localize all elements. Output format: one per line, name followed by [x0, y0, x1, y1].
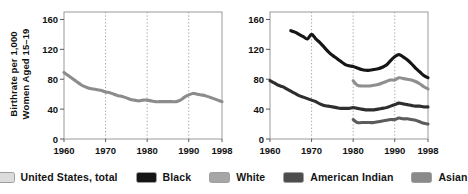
chart-panel-left: Birthrate per 1,000 Women Aged 15–19 040…	[0, 0, 230, 160]
legend-label: Asian	[438, 171, 467, 183]
legend-swatch	[136, 172, 157, 183]
x-tick-label: 1998	[417, 145, 438, 156]
x-tick-label: 1970	[95, 145, 116, 156]
plot-area-left	[0, 0, 230, 160]
chart-legend: United States, totalBlackWhiteAmerican I…	[0, 160, 461, 194]
x-tick-label: 1990	[178, 145, 199, 156]
legend-swatch	[209, 172, 230, 183]
legend-item[interactable]: White	[209, 171, 265, 183]
legend-swatch	[283, 172, 304, 183]
x-tick-label: 1980	[343, 145, 364, 156]
legend-label: Black	[163, 171, 192, 183]
legend-label: United States, total	[21, 171, 118, 183]
x-tick-label: 1980	[137, 145, 158, 156]
plot-area-right	[230, 0, 461, 160]
legend-item[interactable]: Black	[136, 171, 192, 183]
series-line	[64, 73, 222, 102]
x-tick-labels-right: 19601970198019901998	[230, 145, 461, 161]
x-tick-label: 1970	[301, 145, 322, 156]
legend-label: American Indian	[310, 171, 393, 183]
x-tick-label: 1960	[53, 145, 74, 156]
legend-item[interactable]: Asian	[411, 171, 467, 183]
plot-frame	[64, 12, 222, 139]
series-line	[270, 81, 428, 110]
chart-panel-right: 04080120160 19601970198019901998	[230, 0, 461, 160]
x-tick-labels-left: 19601970198019901998	[0, 145, 230, 161]
legend-swatch	[0, 172, 15, 183]
series-line	[353, 78, 428, 89]
x-tick-label: 1990	[384, 145, 405, 156]
x-tick-label: 1960	[259, 145, 280, 156]
series-line	[353, 118, 428, 124]
legend-item[interactable]: United States, total	[0, 171, 118, 183]
legend-swatch	[411, 172, 432, 183]
chart-panels: Birthrate per 1,000 Women Aged 15–19 040…	[0, 0, 461, 160]
legend-label: White	[236, 171, 265, 183]
legend-item[interactable]: American Indian	[283, 171, 393, 183]
